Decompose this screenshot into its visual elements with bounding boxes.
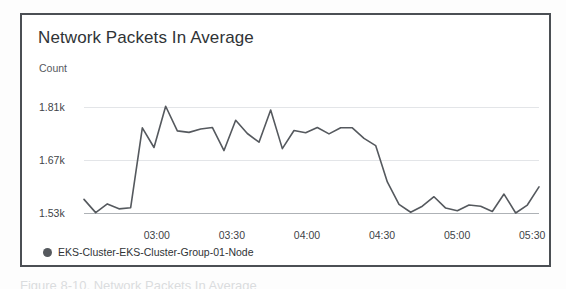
y-axis-label: Count	[39, 62, 67, 74]
series-line-chart	[84, 81, 539, 226]
chart-widget-card: Network Packets In Average Count 1.81k 1…	[20, 13, 551, 267]
x-tick-label-4: 05:00	[444, 229, 470, 241]
y-tick-label-1: 1.67k	[39, 154, 83, 166]
x-tick-label-1: 03:30	[219, 229, 245, 241]
legend-series-label: EKS-Cluster-EKS-Cluster-Group-01-Node	[58, 246, 253, 258]
chart-widget-body: Network Packets In Average Count 1.81k 1…	[22, 15, 549, 265]
figure-caption: Figure 8-10. Network Packets In Average	[20, 278, 320, 289]
x-tick-label-5: 05:30	[519, 229, 545, 241]
series-polyline	[84, 106, 539, 213]
x-tick-label-2: 04:00	[294, 229, 320, 241]
y-tick-label-2: 1.53k	[39, 207, 83, 219]
chart-title: Network Packets In Average	[38, 28, 254, 48]
legend-marker-icon	[43, 248, 52, 257]
chart-legend[interactable]: EKS-Cluster-EKS-Cluster-Group-01-Node	[43, 246, 253, 258]
page-background: Network Packets In Average Count 1.81k 1…	[0, 0, 566, 289]
x-axis-ticks: 03:00 03:30 04:00 04:30 05:00 05:30	[84, 229, 539, 243]
plot-area: 1.81k 1.67k 1.53k	[39, 81, 539, 226]
x-tick-label-3: 04:30	[369, 229, 395, 241]
x-tick-label-0: 03:00	[144, 229, 170, 241]
y-tick-label-0: 1.81k	[39, 101, 83, 113]
